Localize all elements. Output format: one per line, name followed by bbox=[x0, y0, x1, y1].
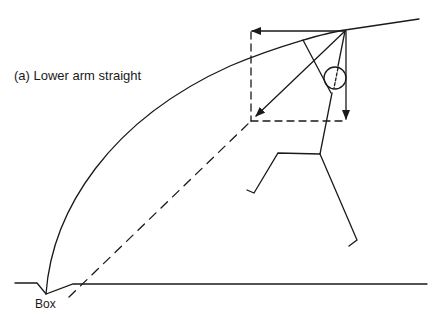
diagram-caption: (a) Lower arm straight bbox=[14, 68, 141, 83]
trajectory-curve bbox=[46, 19, 419, 294]
projection-line-dashed bbox=[69, 121, 251, 297]
resultant-force-arrow bbox=[256, 31, 345, 116]
box-label: Box bbox=[35, 297, 56, 311]
diagram-svg bbox=[0, 0, 438, 333]
diagram-canvas: (a) Lower arm straight Box bbox=[0, 0, 438, 333]
vaulter-left-leg bbox=[247, 153, 320, 193]
vaulter-torso bbox=[320, 93, 332, 154]
ground-line bbox=[15, 283, 427, 294]
head-dashed-line bbox=[334, 68, 338, 88]
vaulter-right-leg bbox=[320, 154, 357, 246]
